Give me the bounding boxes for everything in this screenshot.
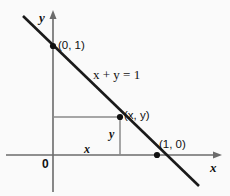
point-1-0 xyxy=(154,152,160,158)
point-label-general: (x, y) xyxy=(124,110,150,122)
origin-label: 0 xyxy=(42,158,49,170)
guide-label-x: x xyxy=(84,143,90,155)
point-x-y xyxy=(117,114,123,120)
guide-label-y: y xyxy=(109,128,114,140)
point-markers xyxy=(50,43,160,158)
x-axis xyxy=(6,152,222,159)
point-0-1 xyxy=(50,43,56,49)
point-label-x-intercept: (1, 0) xyxy=(159,139,186,151)
y-axis-label: y xyxy=(39,11,45,24)
line-x-plus-y-equals-1 xyxy=(23,16,199,186)
point-label-y-intercept: (0, 1) xyxy=(58,40,85,52)
diagram-canvas xyxy=(0,0,230,196)
x-axis-label: x xyxy=(210,161,217,174)
math-diagram: y x 0 (0, 1) x + y = 1 (x, y) (1, 0) y x xyxy=(0,0,230,196)
y-axis xyxy=(50,10,57,192)
line-equation-label: x + y = 1 xyxy=(93,68,140,81)
